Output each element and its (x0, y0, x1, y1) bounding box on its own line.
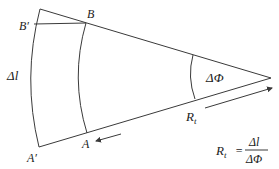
inner-arc (78, 23, 87, 133)
svg-text:Rt: Rt (215, 143, 227, 160)
label-delta-l: Δl (6, 68, 19, 83)
radius-arrow-left (96, 134, 121, 141)
formula-equals: = (235, 144, 243, 158)
b-prime-b-line (34, 23, 86, 24)
label-radius: Rt (185, 109, 197, 126)
radius-formula: Rt = Δl ΔΦ (215, 135, 268, 166)
label-delta-phi: ΔΦ (205, 70, 224, 85)
angle-arc (190, 55, 195, 99)
label-b-prime: B′ (19, 19, 29, 33)
label-b: B (87, 7, 95, 21)
sector-diagram: B′ B Δl A′ A ΔΦ Rt Rt = Δl ΔΦ (0, 0, 279, 169)
formula-denominator: ΔΦ (245, 152, 262, 166)
top-radius-line (40, 9, 271, 78)
radius-arrow-right (205, 88, 272, 108)
formula-numerator: Δl (248, 135, 260, 149)
bottom-radius-line (39, 78, 271, 147)
label-a-prime: A′ (26, 151, 37, 165)
outer-arc (31, 9, 40, 147)
label-a: A (81, 137, 90, 151)
